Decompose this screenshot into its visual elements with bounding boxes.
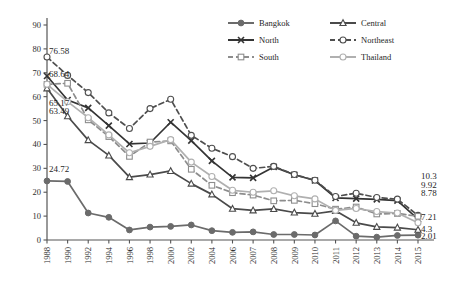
data-point xyxy=(394,224,400,230)
data-point xyxy=(106,132,112,138)
data-point xyxy=(394,196,400,202)
data-point xyxy=(168,168,174,174)
data-point xyxy=(250,189,256,195)
data-point xyxy=(394,210,400,216)
x-axis-tick-label: 2009 xyxy=(290,247,300,264)
data-point xyxy=(333,207,339,213)
y-axis-tick-label: 70 xyxy=(33,68,42,78)
data-point xyxy=(147,171,153,177)
data-point xyxy=(291,209,297,215)
x-axis-tick-label: 1992 xyxy=(83,247,93,264)
data-point xyxy=(106,110,112,116)
data-point xyxy=(188,159,194,165)
data-point xyxy=(44,81,50,87)
data-point xyxy=(271,206,277,212)
series-north xyxy=(44,73,421,222)
x-axis-tick-label: 2011 xyxy=(331,247,341,264)
x-axis-tick-label: 1994 xyxy=(104,246,114,264)
data-point xyxy=(168,223,174,229)
data-point xyxy=(374,209,380,215)
x-axis-tick-label: 2000 xyxy=(166,247,176,264)
data-point xyxy=(188,222,194,228)
x-axis-tick-label: 2002 xyxy=(186,247,196,264)
data-point xyxy=(126,150,132,156)
data-point xyxy=(353,220,359,226)
data-point xyxy=(250,207,256,213)
data-point xyxy=(271,232,277,238)
legend-marker xyxy=(340,54,346,60)
data-point xyxy=(291,193,297,199)
x-axis-tick-label: 2004 xyxy=(207,246,217,264)
data-point xyxy=(209,158,215,164)
value-annotation-right: 2.01 xyxy=(421,231,437,241)
y-axis-tick-label: 0 xyxy=(37,235,41,245)
legend-label: Northeast xyxy=(361,35,395,45)
legend-label: North xyxy=(259,35,280,45)
y-axis-tick-label: 80 xyxy=(33,44,42,54)
data-point xyxy=(230,154,236,160)
legend-item-south: South xyxy=(228,52,280,62)
data-point xyxy=(106,123,112,129)
value-annotation-left: 68.64 xyxy=(49,69,70,79)
x-axis-tick-label: 2007 xyxy=(248,247,258,264)
y-axis-tick-label: 60 xyxy=(33,92,42,102)
data-point xyxy=(374,234,380,240)
legend-label: Bangkok xyxy=(259,18,290,28)
data-point xyxy=(291,232,297,238)
x-axis-tick-label: 2008 xyxy=(269,247,279,264)
data-point xyxy=(168,137,174,143)
x-axis-tick-label: 1996 xyxy=(125,247,135,264)
data-point xyxy=(271,198,277,204)
data-point xyxy=(209,228,215,234)
data-point xyxy=(126,125,132,131)
data-point xyxy=(374,224,380,230)
data-point xyxy=(230,229,236,235)
data-point xyxy=(147,106,153,112)
series-layer xyxy=(44,54,421,240)
legend-layer: BangkokCentralNorthNortheastSouthThailan… xyxy=(228,18,395,62)
value-annotation-right: 7.21 xyxy=(421,212,437,222)
data-point xyxy=(271,163,277,169)
data-point xyxy=(209,191,215,197)
legend-label: Thailand xyxy=(361,52,392,62)
line-chart: 0102030405060708090198819901992199419961… xyxy=(0,0,455,285)
value-annotation-left: 24.72 xyxy=(49,164,69,174)
legend-item-thailand: Thailand xyxy=(330,52,392,62)
value-annotation-right: 8.78 xyxy=(421,188,437,198)
data-point xyxy=(415,214,421,220)
legend-item-northeast: Northeast xyxy=(330,35,395,45)
data-point xyxy=(312,196,318,202)
legend-label: South xyxy=(259,52,280,62)
x-axis-tick-label: 2015 xyxy=(413,247,423,264)
x-axis-tick-label: 1988 xyxy=(42,247,52,264)
data-point xyxy=(188,132,194,138)
data-point xyxy=(209,182,215,188)
series-line-north xyxy=(47,76,418,219)
data-point xyxy=(188,166,194,172)
legend-item-bangkok: Bangkok xyxy=(228,18,290,28)
data-point xyxy=(147,224,153,230)
y-axis-tick-label: 30 xyxy=(33,163,42,173)
x-axis-tick-label: 1998 xyxy=(145,247,155,264)
data-point xyxy=(209,145,215,151)
data-point xyxy=(168,119,174,125)
legend-marker xyxy=(340,37,346,43)
data-point xyxy=(85,210,91,216)
data-point xyxy=(85,115,91,121)
x-axis-tick-label: 2012 xyxy=(351,247,361,264)
data-point xyxy=(312,210,318,216)
data-point xyxy=(333,218,339,224)
legend-marker xyxy=(238,54,244,60)
data-point xyxy=(353,205,359,211)
data-point xyxy=(209,173,215,179)
data-point xyxy=(188,180,194,186)
data-point xyxy=(353,233,359,239)
x-axis-tick-label: 2006 xyxy=(228,247,238,264)
data-point xyxy=(85,90,91,96)
data-point xyxy=(250,165,256,171)
value-annotation-left: 63.49 xyxy=(49,106,70,116)
y-axis-tick-label: 40 xyxy=(33,139,42,149)
x-axis-tick-label: 1990 xyxy=(63,247,73,264)
legend-marker xyxy=(238,20,244,26)
legend-item-central: Central xyxy=(330,18,387,28)
